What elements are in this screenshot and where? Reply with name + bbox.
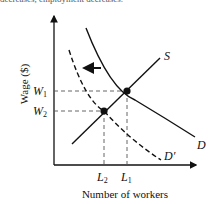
l2-label: L2 (96, 170, 108, 185)
supply-curve (72, 58, 160, 144)
guide-lines (54, 91, 127, 165)
equilibrium-point-2 (100, 107, 107, 114)
new-demand-label: D′ (163, 149, 176, 163)
x-axis-label: Number of workers (82, 188, 168, 200)
y-axis-label: Wage ($) (18, 63, 31, 104)
new-demand-curve (69, 50, 161, 160)
w2-label: W2 (33, 104, 47, 119)
labor-market-diagram: S D D′ W1 W2 L2 L1 Wage ($) Number of wo… (0, 0, 216, 204)
demand-label: D (196, 138, 206, 152)
supply-label: S (164, 49, 170, 63)
demand-curve (86, 28, 195, 137)
l1-label: L1 (120, 170, 132, 185)
w1-label: W1 (33, 84, 47, 99)
equilibrium-point-1 (123, 87, 130, 94)
